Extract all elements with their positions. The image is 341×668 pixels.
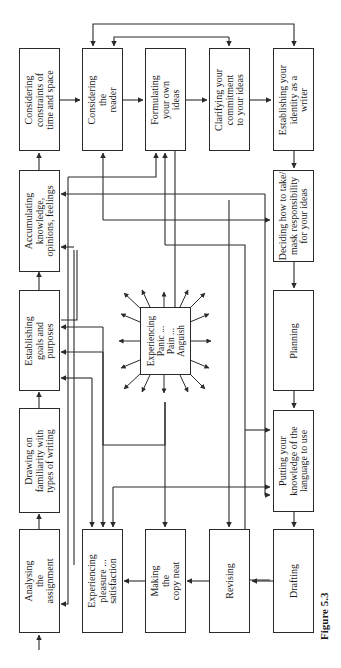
box-accumulating: Accumulating knowledge, opinions, feelin… [19,170,60,272]
box-accumulating-label: Accumulating knowledge, opinions, feelin… [24,185,56,256]
box-drawing-label: Drawing on familiarity with types of wri… [24,429,56,492]
box-deciding-label: Deciding how to take/ mask responsibilit… [278,172,310,261]
box-reader: Considering the reader [82,48,123,151]
figure-caption: Figure 5.3 [318,593,330,640]
box-drawing: Drawing on familiarity with types of wri… [19,408,60,513]
box-establishing-goals: Establishing goals and purposes [19,290,60,391]
box-formulating-label: Formulating your own ideas [150,75,182,124]
box-making-neat: Making the copy neat [145,529,186,633]
box-pleasure-label: Experiencing pleasure ... satisfaction [87,554,119,607]
writing-process-diagram: Considering constraints of time and spac… [0,0,341,668]
box-identity: Establishing your identity as a writer [273,48,314,151]
box-reader-label: Considering the reader [87,75,119,124]
box-drafting-label: Drafting [288,564,299,598]
box-drafting: Drafting [273,529,314,633]
box-planning: Planning [273,290,314,391]
box-panic-label: Experiencing Panic ... Pain ... Anguish [146,316,186,367]
box-panic: Experiencing Panic ... Pain ... Anguish [140,307,191,375]
box-constraints: Considering constraints of time and spac… [19,48,60,151]
box-clarifying-label: Clarifying your commitment to your ideas [214,69,246,131]
box-formulating: Formulating your own ideas [145,48,186,151]
box-identity-label: Establishing your identity as a writer [278,64,310,134]
box-deciding: Deciding how to take/ mask responsibilit… [273,170,314,262]
box-pleasure: Experiencing pleasure ... satisfaction [82,529,123,633]
box-revising-label: Revising [224,563,235,599]
box-establishing-goals-label: Establishing goals and purposes [24,316,56,365]
box-putting: Putting your knowledge of the language t… [273,410,314,512]
box-putting-label: Putting your knowledge of the language t… [278,426,310,495]
box-revising: Revising [209,529,250,633]
box-clarifying: Clarifying your commitment to your ideas [209,48,250,151]
box-analysing-label: Analysing the assignment [24,559,56,604]
box-planning-label: Planning [288,323,299,359]
box-analysing: Analysing the assignment [19,529,60,633]
box-making-neat-label: Making the copy neat [150,562,182,601]
box-constraints-label: Considering constraints of time and spac… [24,70,56,129]
